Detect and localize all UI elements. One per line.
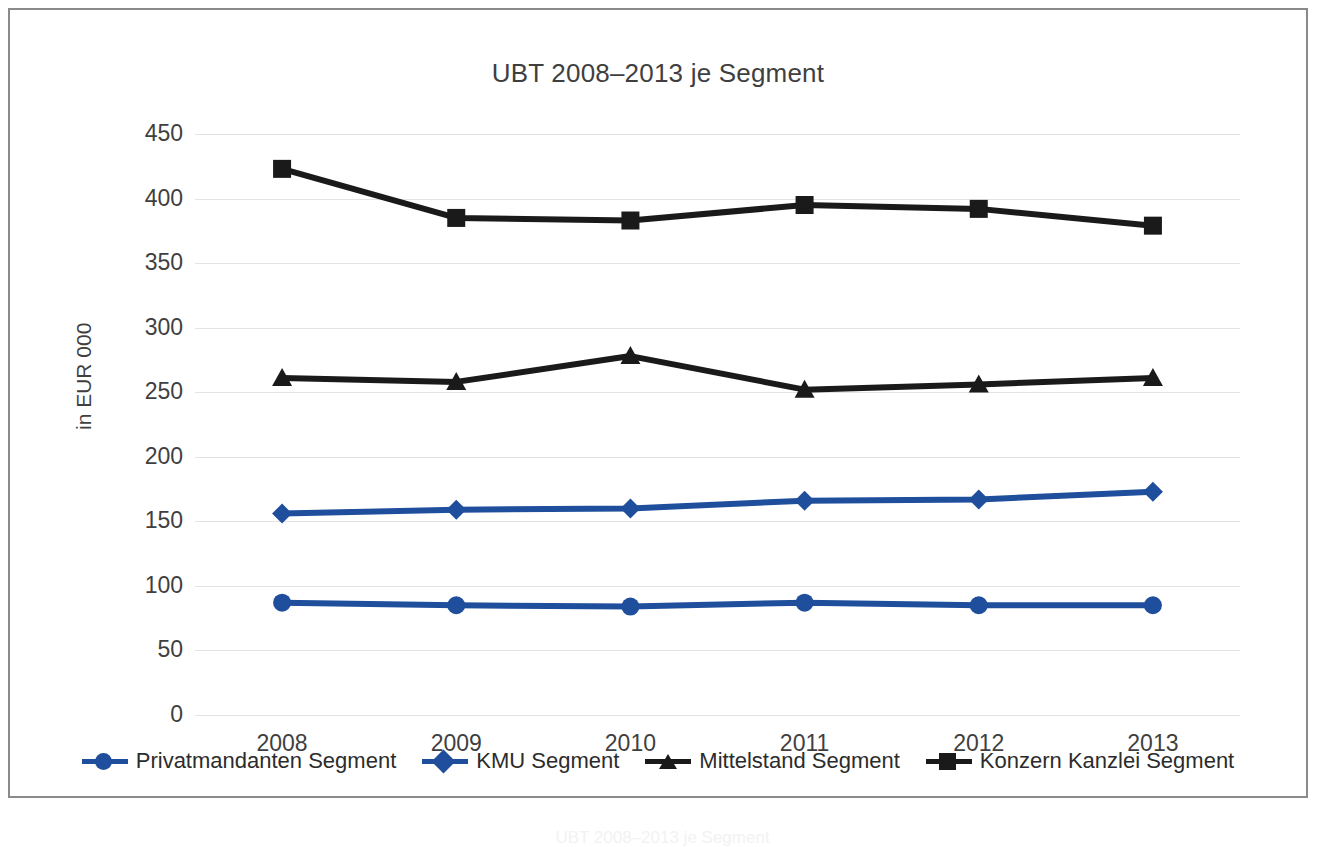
- data-series: [272, 482, 1163, 524]
- series-line: [282, 169, 1153, 226]
- data-point-marker: [795, 491, 815, 511]
- legend-label: Konzern Kanzlei Segment: [980, 748, 1234, 774]
- y-axis-tick-label: 300: [63, 314, 183, 341]
- legend-label: KMU Segment: [476, 748, 619, 774]
- y-axis-tick-label: 250: [63, 378, 183, 405]
- data-point-marker: [796, 196, 814, 214]
- data-point-marker: [447, 596, 465, 614]
- chart-legend: Privatmandanten SegmentKMU SegmentMittel…: [10, 748, 1306, 774]
- legend-marker-icon: [422, 752, 468, 770]
- y-axis-tick-label: 450: [63, 120, 183, 147]
- legend-label: Mittelstand Segment: [699, 748, 900, 774]
- legend-label: Privatmandanten Segment: [136, 748, 397, 774]
- data-point-marker: [970, 596, 988, 614]
- data-point-marker: [273, 594, 291, 612]
- gridline: [195, 715, 1240, 716]
- data-point-marker: [273, 160, 291, 178]
- chart-title: UBT 2008–2013 je Segment: [10, 58, 1306, 89]
- data-point-marker: [1143, 482, 1163, 502]
- series-line: [282, 492, 1153, 514]
- legend-marker-icon: [926, 752, 972, 770]
- series-layer: [195, 134, 1240, 715]
- data-series: [273, 594, 1162, 616]
- plot-area: 050100150200250300350400450 200820092010…: [195, 134, 1240, 715]
- y-axis-tick-label: 0: [63, 701, 183, 728]
- legend-item[interactable]: Konzern Kanzlei Segment: [926, 748, 1234, 774]
- data-point-marker: [620, 498, 640, 518]
- y-axis-tick-label: 50: [63, 636, 183, 663]
- y-axis-tick-label: 200: [63, 443, 183, 470]
- chart-page: UBT 2008–2013 je Segment in EUR 000 0501…: [0, 0, 1325, 847]
- legend-item[interactable]: Privatmandanten Segment: [82, 748, 397, 774]
- y-axis-tick-label: 400: [63, 185, 183, 212]
- data-point-marker: [447, 209, 465, 227]
- data-series: [273, 160, 1162, 235]
- data-point-marker: [1144, 596, 1162, 614]
- data-point-marker: [969, 489, 989, 509]
- y-axis-tick-label: 150: [63, 507, 183, 534]
- data-point-marker: [272, 504, 292, 524]
- data-point-marker: [796, 594, 814, 612]
- data-point-marker: [1144, 217, 1162, 235]
- legend-marker-icon: [645, 752, 691, 770]
- bottom-caption: UBT 2008–2013 je Segment: [0, 828, 1325, 847]
- legend-marker-icon: [82, 752, 128, 770]
- data-point-marker: [446, 500, 466, 520]
- data-point-marker: [621, 212, 639, 230]
- y-axis-tick-label: 100: [63, 572, 183, 599]
- series-line: [282, 603, 1153, 607]
- y-axis-tick-label: 350: [63, 249, 183, 276]
- data-series: [272, 346, 1163, 398]
- legend-item[interactable]: KMU Segment: [422, 748, 619, 774]
- series-line: [282, 356, 1153, 390]
- legend-item[interactable]: Mittelstand Segment: [645, 748, 900, 774]
- data-point-marker: [621, 598, 639, 616]
- chart-frame: UBT 2008–2013 je Segment in EUR 000 0501…: [8, 8, 1308, 798]
- data-point-marker: [970, 200, 988, 218]
